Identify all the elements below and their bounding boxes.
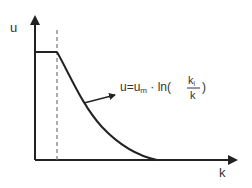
svg-text:k: k <box>190 89 196 101</box>
y-axis-label: u <box>10 20 17 35</box>
formula-pointer-arrow <box>84 95 115 103</box>
decay-curve <box>57 52 157 160</box>
svg-text:u=um · ln(: u=um · ln( <box>120 80 171 95</box>
formula: u=um · ln( ki k ) <box>120 74 206 101</box>
diagram-canvas: u k u=um · ln( ki k ) <box>0 0 252 188</box>
svg-text:): ) <box>202 80 206 94</box>
svg-text:ki: ki <box>188 74 196 87</box>
x-axis-label: k <box>219 165 226 180</box>
